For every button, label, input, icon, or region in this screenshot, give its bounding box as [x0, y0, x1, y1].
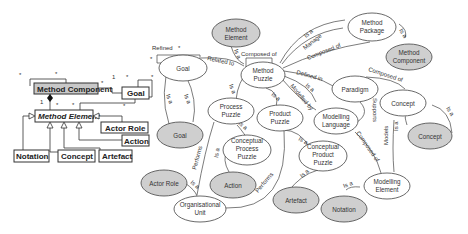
node-method-component[interactable]: Method Component [386, 44, 432, 70]
uml-goal-element [80, 99, 135, 110]
edge-label-performs: Performs [191, 145, 203, 170]
edge-package-composed [283, 42, 370, 68]
node-label: Modelling [323, 113, 350, 121]
edge-label-is-a: Is a [270, 91, 282, 102]
node-method-puzzle[interactable]: Method Puzzle [241, 62, 285, 88]
node-label: Modelling [374, 178, 401, 186]
node-conceptual-process-puzzle[interactable]: Conceptual Process Puzzle [223, 135, 271, 165]
node-modelling-element[interactable]: Modelling Element [364, 173, 410, 199]
node-label: Unit [194, 209, 205, 216]
node-notation[interactable]: Notation [321, 196, 367, 222]
node-label: Artefact [285, 197, 307, 204]
node-label: Goal [176, 65, 189, 72]
mult-label: * [55, 71, 58, 77]
mult-label: * [150, 56, 153, 62]
node-label: Puzzle [238, 153, 257, 160]
node-label: Package [360, 27, 385, 35]
edge-label-defined-in: Defined in [296, 69, 324, 82]
uml-artefact-label: Artefact [102, 152, 133, 161]
node-modelling-language[interactable]: Modelling Language [314, 108, 358, 134]
edge-label-is-a: Is a [213, 147, 221, 158]
node-label: Conceptual [307, 143, 339, 151]
node-label: Puzzle [271, 118, 290, 125]
edge-label-supports: Supports [372, 98, 378, 122]
node-label: Method [225, 26, 247, 33]
node-label: Conceptual [231, 137, 263, 145]
node-label: Product [269, 110, 291, 117]
method-diagram: * * Method Component * 1 * * Goal * 1 * … [0, 0, 468, 234]
mult-label: 1 [112, 74, 116, 80]
composition-diamond-icon [47, 94, 53, 102]
inheritance-triangle-icon [29, 113, 35, 119]
uml-class-diagram: * * Method Component * 1 * * Goal * 1 * … [14, 71, 154, 162]
node-label: Concept [418, 133, 442, 141]
node-label: Element [224, 34, 247, 41]
node-goal-grey[interactable]: Goal [157, 122, 203, 148]
node-concept[interactable]: Concept [380, 90, 426, 116]
node-product-puzzle[interactable]: Product Puzzle [257, 105, 303, 131]
edge-label-is-a: Is a [183, 93, 192, 105]
edge-label-models: Models [383, 126, 389, 145]
mult-label: * [178, 45, 181, 51]
node-method-package[interactable]: Method Package [348, 13, 396, 41]
node-method-element[interactable]: Method Element [212, 19, 260, 47]
node-action[interactable]: Action [210, 172, 256, 198]
node-label: Organisational [180, 201, 221, 209]
node-label: Action [224, 182, 242, 189]
edge-label-related-to: Related to [207, 55, 236, 67]
mult-label: * [123, 103, 126, 109]
node-process-puzzle[interactable]: Process Puzzle [208, 98, 254, 124]
node-label: Method [361, 19, 383, 26]
edge-label-performs: Performs [254, 171, 274, 194]
node-label: Puzzle [314, 159, 333, 166]
node-label: Component [393, 57, 426, 65]
mult-label: * [56, 102, 59, 108]
uml-concept-label: Concept [61, 152, 93, 161]
edge-label-is-a: Is a [165, 93, 174, 105]
mult-label: 1 [40, 99, 44, 105]
node-label: Notation [332, 206, 356, 213]
edge-label-is-a: Is a [228, 83, 237, 95]
node-organisational-unit[interactable]: Organisational Unit [174, 196, 226, 222]
edge-label-composed-of: Composed of [241, 51, 277, 57]
node-label: Puzzle [254, 75, 273, 82]
mult-label: * [72, 102, 75, 108]
uml-gen-concept [50, 128, 58, 152]
inheritance-triangle-icon [47, 122, 53, 128]
node-label: Puzzle [222, 111, 241, 118]
mult-label: * [19, 72, 22, 78]
node-label: Method [252, 67, 274, 74]
node-label: Goal [173, 132, 186, 139]
node-label: Method [398, 49, 420, 56]
edge-label-is-a: Is a [342, 180, 354, 189]
node-label: Process [236, 145, 259, 152]
uml-gen-notation [23, 116, 29, 150]
uml-notation-label: Notation [16, 152, 49, 161]
inheritance-triangle-icon [61, 122, 67, 128]
node-artefact[interactable]: Artefact [273, 187, 319, 213]
node-concept-grey[interactable]: Concept [408, 123, 452, 149]
uml-action-label: Action [124, 137, 149, 146]
edge-label-is-a: Is a [299, 168, 311, 179]
node-label: Paradigm [342, 86, 369, 94]
node-paradigm[interactable]: Paradigm [332, 76, 378, 102]
uml-actor-role-label: Actor Role [105, 124, 146, 133]
edge-label-is-a: Is a [398, 28, 408, 40]
inheritance-triangle-icon [76, 122, 82, 128]
node-conceptual-product-puzzle[interactable]: Conceptual Product Puzzle [299, 141, 347, 171]
node-label: Process [220, 103, 243, 110]
edge-label-composed-of: Composed of [355, 130, 381, 163]
node-actor-role[interactable]: Actor Role [141, 170, 187, 196]
mult-label: * [151, 74, 154, 80]
node-label: Product [312, 151, 334, 158]
uml-gen-actor-role [99, 116, 122, 122]
node-goal[interactable]: Goal [159, 55, 207, 81]
node-label: Element [375, 186, 398, 193]
edge-concept-grey-isa [405, 117, 407, 125]
mult-label: * [126, 74, 129, 80]
edge-label-refined: Refined [152, 45, 173, 51]
node-label: Language [322, 121, 351, 129]
uml-gen-artefact [64, 128, 100, 150]
node-label: Concept [391, 100, 415, 108]
uml-method-element-label: Method Element [38, 112, 100, 121]
